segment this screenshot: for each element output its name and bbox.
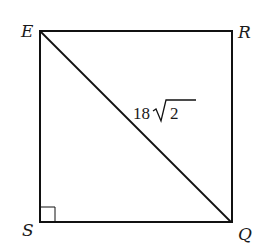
vertex-label-Q: Q: [238, 224, 252, 244]
diagonal-EQ: [40, 31, 231, 222]
vertex-label-R: R: [237, 22, 251, 42]
square-diagram: E R S Q 18 2: [0, 0, 267, 247]
right-angle-marker: [40, 207, 55, 222]
radicand: 2: [170, 104, 179, 123]
vertex-label-S: S: [22, 220, 34, 240]
vertex-label-E: E: [20, 21, 34, 41]
length-coefficient: 18: [133, 104, 150, 123]
diagonal-length-label: 18 2: [133, 100, 196, 123]
